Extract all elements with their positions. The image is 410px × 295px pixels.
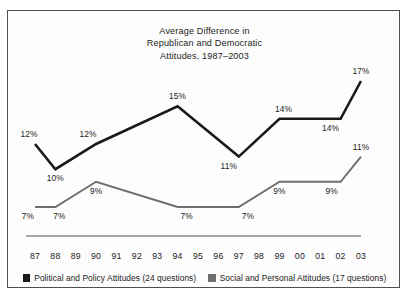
data-label: 7% — [180, 212, 192, 221]
x-tick-95: 95 — [193, 250, 203, 262]
data-label: 9% — [273, 187, 285, 196]
x-tick-02: 02 — [336, 250, 346, 262]
legend-item-political[interactable]: Political and Policy Attitudes (24 quest… — [23, 273, 196, 283]
x-tick-98: 98 — [254, 250, 264, 262]
x-tick-99: 99 — [274, 250, 284, 262]
data-label: 9% — [325, 187, 337, 196]
x-tick-90: 90 — [91, 250, 101, 262]
data-label: 12% — [20, 130, 37, 139]
data-label: 11% — [353, 143, 369, 152]
data-label: 7% — [53, 212, 65, 221]
x-tick-88: 88 — [50, 250, 60, 262]
data-label: 7% — [242, 212, 254, 221]
x-tick-93: 93 — [152, 250, 162, 262]
x-tick-89: 89 — [71, 250, 81, 262]
plot-area: 12%10%12%15%11%14%14%17% 7%7%9%7%7%9%9%1… — [8, 11, 401, 289]
data-label: 12% — [80, 130, 97, 139]
data-label: 14% — [322, 124, 339, 133]
chart-legend: Political and Policy Attitudes (24 quest… — [8, 270, 401, 286]
legend-item-social[interactable]: Social and Personal Attitudes (17 questi… — [208, 273, 386, 283]
data-label: 10% — [47, 174, 64, 183]
x-tick-97: 97 — [234, 250, 244, 262]
legend-swatch-social — [208, 274, 216, 282]
x-tick-03: 03 — [356, 250, 366, 262]
data-label: 9% — [90, 187, 102, 196]
data-label: 11% — [221, 162, 237, 171]
x-tick-00: 00 — [295, 250, 305, 262]
plot-svg — [8, 11, 401, 289]
series-line-political — [35, 81, 361, 169]
x-tick-87: 87 — [30, 250, 40, 262]
data-label: 7% — [22, 212, 34, 221]
data-label: 15% — [169, 92, 186, 101]
legend-swatch-political — [23, 274, 31, 282]
chart-figure: Average Difference in Republican and Dem… — [0, 0, 410, 295]
data-label: 17% — [352, 67, 369, 76]
x-tick-01: 01 — [315, 250, 325, 262]
series-line-social — [35, 157, 361, 207]
chart-panel: Average Difference in Republican and Dem… — [7, 10, 400, 288]
x-tick-92: 92 — [132, 250, 142, 262]
data-label: 14% — [275, 105, 292, 114]
x-tick-94: 94 — [173, 250, 183, 262]
x-tick-91: 91 — [111, 250, 121, 262]
legend-label-political: Political and Policy Attitudes (24 quest… — [34, 273, 196, 283]
x-tick-96: 96 — [213, 250, 223, 262]
legend-label-social: Social and Personal Attitudes (17 questi… — [220, 273, 387, 283]
x-axis-tick-labels: 8788899091929394959697989900010203 — [8, 250, 401, 264]
